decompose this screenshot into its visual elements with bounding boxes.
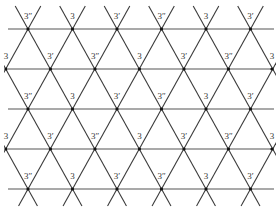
- site-label: 3′: [247, 11, 254, 21]
- lattice-vertex: [4, 67, 7, 70]
- lattice-vertex: [204, 27, 207, 30]
- lattice-vertex: [249, 27, 252, 30]
- site-label: 3′: [47, 51, 54, 61]
- site-label: 3″: [91, 51, 100, 61]
- triangular-lattice-diagram: 3″33′3″33′33′3″33′3″33″33′3″33′33′3″33′3…: [0, 0, 280, 212]
- lattice-vertex: [182, 147, 185, 150]
- lattice-vertex: [71, 187, 74, 190]
- lattice-vertex: [249, 187, 252, 190]
- site-label: 3′: [114, 91, 121, 101]
- site-label: 3′: [247, 91, 254, 101]
- lattice-vertex: [71, 107, 74, 110]
- site-label: 3″: [24, 11, 33, 21]
- lattice-vertex: [270, 67, 273, 70]
- lattice-vertex: [270, 147, 273, 150]
- site-label: 3′: [247, 171, 254, 181]
- site-label: 3: [4, 131, 9, 141]
- lattice-vertex: [138, 67, 141, 70]
- site-label: 3: [70, 171, 75, 181]
- site-label: 3: [204, 171, 209, 181]
- site-label: 3′: [181, 131, 188, 141]
- site-label: 3″: [157, 91, 166, 101]
- lattice-vertex: [227, 67, 230, 70]
- site-label: 3″: [224, 131, 233, 141]
- lattice-vertex: [182, 67, 185, 70]
- site-label: 3: [204, 91, 209, 101]
- site-label: 3″: [157, 171, 166, 181]
- site-label: 3: [70, 11, 75, 21]
- lattice-vertex: [115, 187, 118, 190]
- lattice-vertex: [249, 107, 252, 110]
- site-label: 3′: [114, 11, 121, 21]
- site-label: 3: [137, 131, 142, 141]
- lattice-vertex: [204, 187, 207, 190]
- site-label: 3: [204, 11, 209, 21]
- lattice-vertex: [115, 27, 118, 30]
- lattice-vertex: [71, 27, 74, 30]
- site-label: 3″: [24, 171, 33, 181]
- site-labels: 3″33′3″33′33′3″33′3″33″33′3″33′33′3″33′3…: [4, 11, 275, 181]
- lattice-vertex: [160, 187, 163, 190]
- lattice-vertex: [26, 187, 29, 190]
- site-label: 3: [70, 91, 75, 101]
- site-label: 3″: [91, 131, 100, 141]
- lattice-vertex: [26, 107, 29, 110]
- lattice-vertex: [4, 147, 7, 150]
- lattice-vertex: [160, 107, 163, 110]
- lattice-vertex: [93, 147, 96, 150]
- site-label: 3: [137, 51, 142, 61]
- diagonal-line: [197, 6, 280, 206]
- site-label: 3: [270, 131, 275, 141]
- site-label: 3: [270, 51, 275, 61]
- lattice-vertex: [160, 27, 163, 30]
- lattice-vertex: [49, 67, 52, 70]
- lattice-vertex: [227, 147, 230, 150]
- lattice-vertex: [115, 107, 118, 110]
- lattice-vertex: [49, 147, 52, 150]
- diagonal-lines: [0, 6, 280, 206]
- site-label: 3′: [47, 131, 54, 141]
- site-label: 3′: [114, 171, 121, 181]
- site-label: 3″: [24, 91, 33, 101]
- lattice-vertex: [93, 67, 96, 70]
- lattice-vertex: [204, 107, 207, 110]
- lattice-vertex: [138, 147, 141, 150]
- lattice-vertex: [26, 27, 29, 30]
- site-label: 3″: [157, 11, 166, 21]
- site-label: 3′: [181, 51, 188, 61]
- site-label: 3″: [224, 51, 233, 61]
- diagonal-line: [238, 6, 280, 206]
- site-label: 3: [4, 51, 9, 61]
